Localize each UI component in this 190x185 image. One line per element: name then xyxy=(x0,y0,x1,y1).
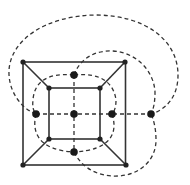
vertex-inner-bottom-right xyxy=(97,136,102,141)
dual-edge-top-right xyxy=(74,75,116,114)
dual-vertex-left xyxy=(32,110,40,118)
vertex-outer-bottom-left xyxy=(20,162,25,167)
diagonal-bottom-right xyxy=(100,139,126,165)
vertex-inner-top-right xyxy=(97,85,102,90)
vertex-outer-top-right xyxy=(122,59,127,64)
dual-edges xyxy=(9,15,178,176)
vertex-inner-top-left xyxy=(46,85,51,90)
dual-vertex-top xyxy=(70,71,78,79)
dual-graph-diagram xyxy=(0,0,190,185)
dual-edge-top-outer xyxy=(74,51,155,114)
dual-vertex-bottom xyxy=(70,148,78,156)
dual-vertex-right xyxy=(108,110,116,118)
dual-edge-bottom-outer xyxy=(74,114,156,176)
dual-edge-left-outer xyxy=(9,15,178,114)
vertex-inner-bottom-left xyxy=(46,136,51,141)
diagonal-top-right xyxy=(100,62,125,88)
vertex-outer-bottom-right xyxy=(123,162,128,167)
diagonal-bottom-left xyxy=(23,139,49,165)
vertex-outer-top-left xyxy=(20,59,25,64)
dual-vertex-center xyxy=(70,110,78,118)
diagonal-top-left xyxy=(23,62,49,88)
dual-edge-top-left xyxy=(33,75,74,114)
dual-vertex-outer xyxy=(147,110,155,118)
